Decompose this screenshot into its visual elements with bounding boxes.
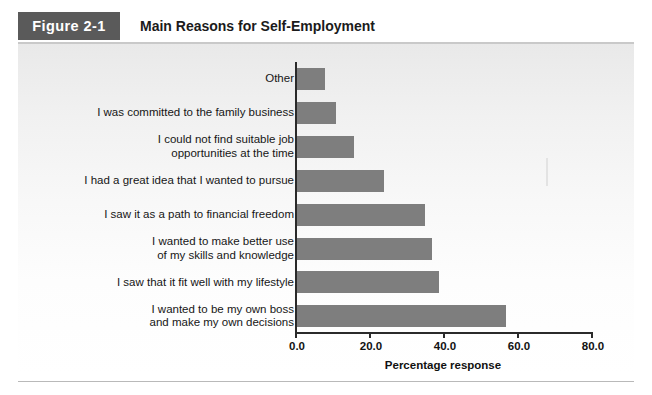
bar-category-label-line: I was committed to the family business bbox=[97, 106, 294, 120]
bar-track bbox=[295, 265, 634, 299]
bar-category-label-line: of my skills and knowledge bbox=[157, 249, 294, 263]
bar-category-label: I wanted to make better useof my skills … bbox=[34, 232, 294, 266]
bar bbox=[295, 68, 325, 90]
bar-track bbox=[295, 198, 634, 232]
bar-category-label-line: I saw it as a path to financial freedom bbox=[104, 208, 294, 222]
bar-category-label: I had a great idea that I wanted to purs… bbox=[34, 164, 294, 198]
x-axis-tick-label: 80.0 bbox=[568, 340, 618, 352]
bar-track bbox=[295, 164, 634, 198]
bar-category-label-line: Other bbox=[265, 72, 294, 86]
bar-category-label-line: I wanted to make better use bbox=[152, 235, 294, 249]
bar-category-label: I was committed to the family business bbox=[34, 96, 294, 130]
x-axis-tick-label: 40.0 bbox=[420, 340, 470, 352]
x-axis-title: Percentage response bbox=[295, 359, 591, 371]
bar-row: I could not find suitable jobopportuniti… bbox=[18, 130, 634, 164]
figure-number-label: Figure 2-1 bbox=[18, 12, 120, 40]
figure-container: Figure 2-1 Main Reasons for Self-Employm… bbox=[0, 0, 652, 395]
x-axis-tick-label: 60.0 bbox=[494, 340, 544, 352]
bar-track bbox=[295, 96, 634, 130]
x-axis-tick bbox=[517, 332, 519, 338]
x-axis-tick bbox=[295, 332, 297, 338]
figure-title: Main Reasons for Self-Employment bbox=[140, 12, 375, 40]
x-axis-tick-label: 20.0 bbox=[346, 340, 396, 352]
x-axis-tick bbox=[443, 332, 445, 338]
bar-category-label: I saw it as a path to financial freedom bbox=[34, 198, 294, 232]
bar-category-label: I wanted to be my own bossand make my ow… bbox=[34, 299, 294, 333]
chart-panel: OtherI was committed to the family busin… bbox=[18, 44, 634, 374]
x-axis-tick bbox=[369, 332, 371, 338]
bar-category-label-line: I wanted to be my own boss bbox=[151, 303, 294, 317]
bar-row: I wanted to make better useof my skills … bbox=[18, 232, 634, 266]
bar-row: I saw it as a path to financial freedom bbox=[18, 198, 634, 232]
bar-track bbox=[295, 130, 634, 164]
bar-category-label-line: I saw that it fit well with my lifestyle bbox=[117, 276, 294, 290]
bar bbox=[295, 170, 384, 192]
bar-track bbox=[295, 232, 634, 266]
bar-category-label-line: opportunities at the time bbox=[171, 147, 294, 161]
bar-category-label-line: I had a great idea that I wanted to purs… bbox=[84, 174, 294, 188]
bar-track bbox=[295, 299, 634, 333]
bar-row: I was committed to the family business bbox=[18, 96, 634, 130]
bar bbox=[295, 305, 506, 327]
x-axis-tick-label: 0.0 bbox=[272, 340, 322, 352]
bar-category-label: Other bbox=[34, 62, 294, 96]
bar bbox=[295, 102, 336, 124]
figure-header: Figure 2-1 Main Reasons for Self-Employm… bbox=[18, 12, 634, 42]
bar-row: Other bbox=[18, 62, 634, 96]
figure-bottom-divider bbox=[18, 381, 634, 382]
bar-category-label-line: and make my own decisions bbox=[150, 316, 294, 330]
y-axis-line bbox=[295, 62, 297, 333]
bar bbox=[295, 238, 432, 260]
bar bbox=[295, 271, 439, 293]
bar-row: I had a great idea that I wanted to purs… bbox=[18, 164, 634, 198]
bar bbox=[295, 136, 354, 158]
bar-track bbox=[295, 62, 634, 96]
bar-category-label: I could not find suitable jobopportuniti… bbox=[34, 130, 294, 164]
x-axis-tick bbox=[591, 332, 593, 338]
bar-chart: OtherI was committed to the family busin… bbox=[18, 44, 634, 374]
bar-category-label: I saw that it fit well with my lifestyle bbox=[34, 265, 294, 299]
bar-row: I wanted to be my own bossand make my ow… bbox=[18, 299, 634, 333]
bar-category-label-line: I could not find suitable job bbox=[158, 133, 294, 147]
bar bbox=[295, 204, 425, 226]
bar-row: I saw that it fit well with my lifestyle bbox=[18, 265, 634, 299]
